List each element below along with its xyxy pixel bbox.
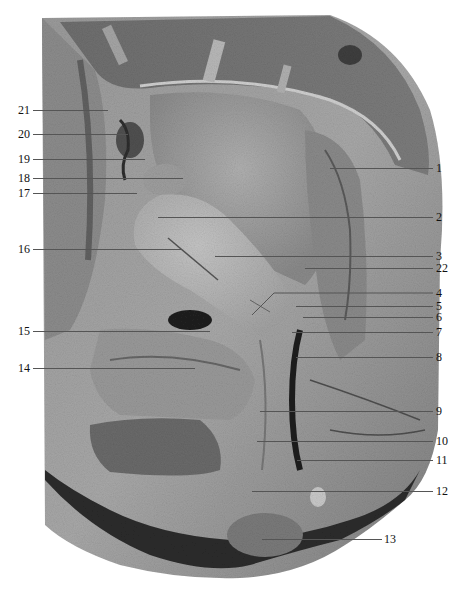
label-number: 11 <box>436 454 448 466</box>
leader-line <box>296 357 433 358</box>
label-number: 6 <box>436 311 442 323</box>
leader-line <box>0 0 465 593</box>
label-number: 8 <box>436 351 442 363</box>
leader-line <box>303 317 433 318</box>
leader-line <box>297 460 433 461</box>
leader-line <box>252 491 433 492</box>
leader-line <box>257 441 433 442</box>
label-number: 10 <box>436 435 448 447</box>
label-number: 12 <box>436 485 448 497</box>
label-number: 7 <box>436 326 442 338</box>
anatomy-figure: 21 20 19 18 17 16 15 14 1 2 3 <box>0 0 465 593</box>
leader-line <box>260 411 433 412</box>
label-number: 4 <box>436 287 442 299</box>
leader-line <box>292 332 433 333</box>
label-number: 9 <box>436 405 442 417</box>
leader-line <box>262 539 382 540</box>
leader-line <box>296 306 433 307</box>
label-number: 13 <box>384 533 396 545</box>
